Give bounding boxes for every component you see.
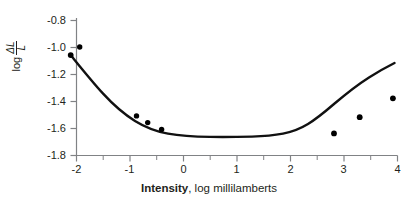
data-points — [68, 44, 396, 136]
x-tick-label: 1 — [222, 163, 251, 175]
x-axis-title-bold: Intensity — [141, 182, 188, 194]
y-tick-label: -1.0 — [28, 41, 66, 53]
x-tick-label: 2 — [276, 163, 305, 175]
data-point — [390, 95, 396, 101]
x-axis-title-rest: , log millilamberts — [188, 182, 277, 194]
x-tick-label: 3 — [329, 163, 358, 175]
data-point — [68, 52, 74, 58]
data-point — [331, 131, 337, 137]
x-axis-title: Intensity, log millilamberts — [0, 182, 418, 194]
x-tick-label: -1 — [115, 163, 144, 175]
y-tick-label: -0.8 — [28, 14, 66, 26]
x-axis-major-ticks — [77, 156, 398, 162]
y-axis-title-denominator: L — [17, 41, 27, 55]
data-point — [77, 44, 82, 49]
y-tick-label: -1.6 — [28, 122, 66, 134]
data-point — [159, 127, 164, 132]
y-tick-label: -1.8 — [28, 149, 66, 161]
y-tick-label: -1.4 — [28, 95, 66, 107]
y-axis-ticks — [71, 21, 77, 156]
fitted-curve — [71, 55, 395, 137]
y-axis-title-fraction: ΔLL — [6, 41, 27, 55]
data-point — [357, 114, 363, 120]
x-tick-label: 0 — [169, 163, 198, 175]
x-tick-label: 4 — [383, 163, 412, 175]
x-tick-label: -2 — [62, 163, 91, 175]
data-point — [134, 113, 139, 118]
y-axis-title-prefix: log — [10, 57, 22, 72]
y-tick-label: -1.2 — [28, 68, 66, 80]
data-point — [145, 120, 150, 125]
chart-figure: -0.8 -1.0 -1.2 -1.4 -1.6 -1.8 -2 -1 0 1 … — [0, 0, 418, 206]
y-axis-title: logΔLL — [6, 26, 27, 86]
